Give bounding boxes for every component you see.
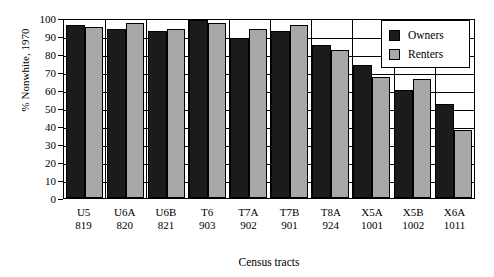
legend-label-owners: Owners	[408, 30, 444, 41]
y-tick-label: 60	[45, 86, 56, 96]
x-tick-number: 819	[63, 219, 104, 232]
bar-owners-t7a	[230, 38, 249, 198]
bar-renters-t6	[208, 23, 227, 198]
x-axis-title: Census tracts	[63, 256, 475, 268]
bar-owners-u5	[66, 25, 85, 198]
legend-item-renters: Renters	[389, 45, 469, 64]
y-axis-tick-labels: 0102030405060708090100	[26, 0, 56, 277]
bar-group	[146, 20, 187, 198]
x-tick-number: 821	[145, 219, 186, 232]
bar-renters-x6a	[454, 130, 473, 198]
bar-renters-x5b	[413, 79, 432, 198]
y-tick-label: 10	[45, 176, 56, 186]
x-tick-code: X5B	[393, 206, 434, 219]
bar-group	[187, 20, 228, 198]
x-tick-code: T8A	[310, 206, 351, 219]
x-tick-label: U6B821	[145, 206, 186, 232]
y-tick-label: 20	[45, 158, 56, 168]
x-tick-label: T8A924	[310, 206, 351, 232]
bar-renters-u6b	[167, 29, 186, 198]
bar-owners-u6b	[148, 31, 167, 198]
x-tick-code: T7A	[228, 206, 269, 219]
bar-renters-t7b	[290, 25, 309, 198]
bar-group	[269, 20, 310, 198]
bar-group	[228, 20, 269, 198]
x-tick-number: 903	[187, 219, 228, 232]
legend-label-renters: Renters	[408, 49, 443, 60]
x-tick-label: X5A1001	[351, 206, 392, 232]
y-tick-mark	[58, 199, 63, 200]
bar-renters-x5a	[372, 77, 391, 198]
x-tick-number: 1002	[393, 219, 434, 232]
bar-group	[64, 20, 105, 198]
legend: Owners Renters	[381, 20, 470, 68]
y-tick-label: 30	[45, 140, 56, 150]
x-tick-code: U5	[63, 206, 104, 219]
bar-group	[105, 20, 146, 198]
x-axis-tick-labels: U5819U6A820U6B821T6903T7A902T7B901T8A924…	[63, 206, 475, 232]
legend-swatch-owners	[389, 30, 400, 41]
x-tick-code: T7B	[269, 206, 310, 219]
bar-owners-x5b	[394, 90, 413, 198]
x-tick-label: U5819	[63, 206, 104, 232]
x-tick-label: X6A1011	[434, 206, 475, 232]
x-tick-label: T7A902	[228, 206, 269, 232]
x-tick-code: T6	[187, 206, 228, 219]
legend-item-owners: Owners	[389, 26, 469, 45]
x-tick-number: 1011	[434, 219, 475, 232]
x-tick-number: 820	[104, 219, 145, 232]
x-tick-label: T7B901	[269, 206, 310, 232]
x-tick-code: U6B	[145, 206, 186, 219]
x-tick-label: T6903	[187, 206, 228, 232]
y-tick-label: 0	[51, 194, 57, 204]
legend-swatch-renters	[389, 49, 400, 60]
x-tick-number: 901	[269, 219, 310, 232]
x-tick-code: X5A	[351, 206, 392, 219]
x-tick-code: X6A	[434, 206, 475, 219]
x-tick-number: 1001	[351, 219, 392, 232]
bar-renters-u5	[85, 27, 104, 198]
bar-owners-t7b	[271, 31, 290, 198]
bar-owners-x5a	[353, 65, 372, 198]
bar-group	[310, 20, 351, 198]
x-tick-code: U6A	[104, 206, 145, 219]
bar-owners-t8a	[312, 45, 331, 198]
y-tick-label: 90	[45, 32, 56, 42]
y-tick-label: 80	[45, 50, 56, 60]
bar-renters-t7a	[249, 29, 268, 198]
y-tick-label: 100	[40, 14, 57, 24]
y-tick-label: 70	[45, 68, 56, 78]
y-tick-label: 40	[45, 122, 56, 132]
x-tick-label: U6A820	[104, 206, 145, 232]
bar-renters-t8a	[331, 50, 350, 198]
y-tick-label: 50	[45, 104, 56, 114]
bar-renters-u6a	[126, 23, 145, 198]
bar-owners-u6a	[107, 29, 126, 198]
x-tick-number: 902	[228, 219, 269, 232]
bar-owners-x6a	[435, 104, 454, 198]
x-tick-label: X5B1002	[393, 206, 434, 232]
bar-chart: % Nonwhite, 1970 0102030405060708090100 …	[0, 0, 494, 277]
x-tick-number: 924	[310, 219, 351, 232]
bar-owners-t6	[189, 20, 208, 198]
